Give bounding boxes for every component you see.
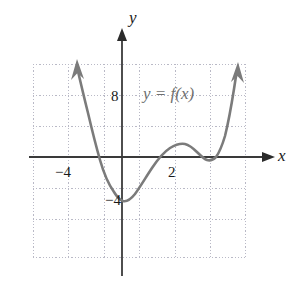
x-axis-arrow-icon [262,152,275,162]
y-axis-label: y [129,9,137,26]
tick-label-x-neg4: −4 [55,165,71,180]
tick-label-y-8: 8 [111,89,119,104]
x-axis [29,152,275,162]
function-equation-label: y = f(x) [143,85,194,102]
x-axis-label: x [278,147,286,164]
curve-left-arrow-icon [71,59,84,80]
curve-right-arrow-icon [231,62,244,83]
y-axis-arrow-icon [117,28,127,41]
tick-label-x-2: 2 [168,165,176,180]
graph-figure: y x 8 −4 −4 2 y = f(x) [0,0,299,281]
function-plot [0,0,299,281]
function-curve [71,59,244,201]
tick-label-y-neg4: −4 [105,193,121,208]
y-axis [117,28,127,276]
